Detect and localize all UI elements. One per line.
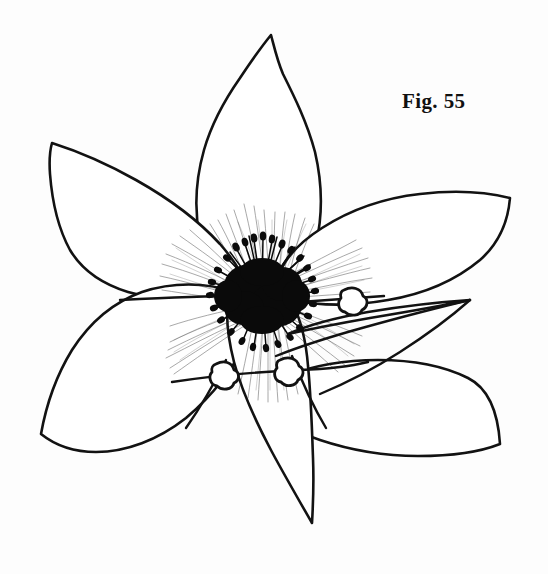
flower-illustration: [0, 0, 548, 574]
figure-plate: Fig. 55: [0, 0, 548, 574]
bract-node-upper-right: [339, 288, 367, 315]
figure-caption: Fig. 55: [402, 89, 465, 114]
petal-bottom: [227, 302, 313, 523]
bract-node-right: [275, 358, 303, 386]
